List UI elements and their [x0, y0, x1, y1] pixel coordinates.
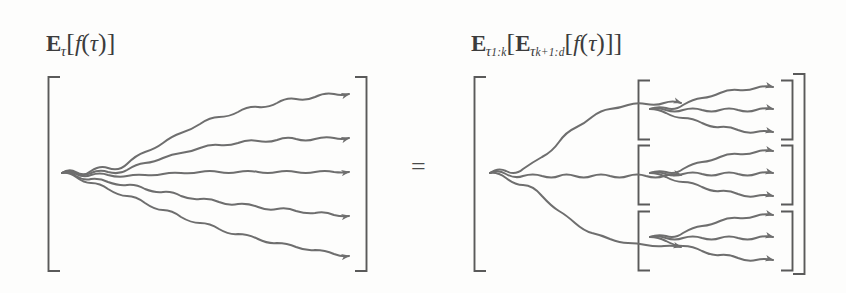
inner-group-3-trajectories [650, 214, 773, 260]
right-panel-outer-trajectories [490, 102, 681, 248]
inner-group-1-trajectories [650, 86, 773, 132]
outer-trajectory-1 [490, 102, 681, 174]
right-panel-close-bracket [793, 74, 805, 274]
trajectory-left-4 [62, 172, 349, 216]
right-panel-open-bracket [475, 77, 487, 271]
left-panel-trajectories [62, 93, 349, 256]
inner-group-2-trajectories [650, 150, 773, 196]
trajectory-left-1 [62, 93, 349, 174]
left-panel-open-bracket [49, 77, 61, 271]
trajectory-diagram-canvas [0, 0, 846, 293]
inner-g2-trajectory-1 [650, 150, 773, 173]
inner-g1-trajectory-3 [650, 109, 773, 133]
trajectory-left-5 [62, 173, 349, 256]
inner-g2-trajectory-3 [650, 173, 773, 197]
inner-group-2-close-bracket [781, 146, 793, 205]
inner-g3-trajectory-1 [650, 214, 773, 237]
inner-group-1-close-bracket [781, 81, 793, 140]
inner-group-3-open-bracket [639, 212, 651, 271]
inner-group-3-close-bracket [781, 212, 793, 271]
inner-group-1-open-bracket [639, 81, 651, 140]
inner-g1-trajectory-1 [650, 86, 773, 109]
expectation-decomposition-figure: Eτ[f(τ)] Eτ1:k[Eτk+1:d[f(τ)]] = [0, 0, 846, 293]
inner-g3-trajectory-3 [650, 237, 773, 261]
trajectory-left-2 [62, 137, 349, 175]
left-panel-close-bracket [355, 77, 367, 271]
